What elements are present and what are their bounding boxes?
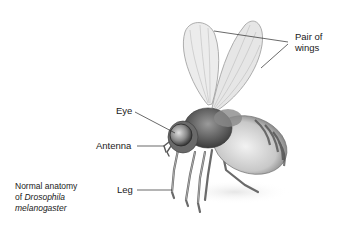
eye-leader-line xyxy=(135,112,175,133)
caption-line-1: Normal anatomy xyxy=(15,181,77,192)
figure-caption: Normal anatomy of Drosophila melanogaste… xyxy=(15,181,77,214)
diagram-canvas: Pair of wings Eye Antenna Leg Normal ana… xyxy=(0,0,343,236)
wings-label-line2: wings xyxy=(295,42,335,53)
wings xyxy=(183,21,262,110)
wings-label-line1: Pair of xyxy=(295,31,335,42)
left-wing xyxy=(183,23,218,105)
thorax-upper xyxy=(214,109,242,127)
eye-label: Eye xyxy=(116,105,132,116)
caption-genus: Drosophila xyxy=(24,192,65,202)
caption-line-2: of Drosophila xyxy=(15,192,77,203)
compound-eye xyxy=(170,124,192,146)
caption-species: melanogaster xyxy=(15,203,67,213)
shadow xyxy=(180,180,290,204)
antenna-label: Antenna xyxy=(96,140,131,151)
wings-label: Pair of wings xyxy=(295,31,335,53)
leg-label: Leg xyxy=(117,184,133,195)
wings-leader-line-2 xyxy=(261,44,288,68)
caption-line-3: melanogaster xyxy=(15,203,77,214)
